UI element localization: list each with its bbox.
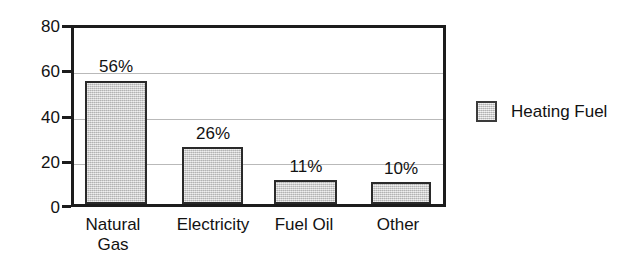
y-axis-tick-label-40: 40 bbox=[20, 109, 60, 126]
bar-fuel-oil[interactable] bbox=[274, 180, 337, 204]
y-axis-tick-label-0: 0 bbox=[20, 199, 60, 216]
bar-value-electricity: 26% bbox=[179, 125, 247, 142]
x-axis-label-fuel-oil: Fuel Oil bbox=[262, 215, 346, 235]
x-axis-label-electricity: Electricity bbox=[163, 215, 263, 235]
x-axis-label-other: Other bbox=[358, 215, 438, 235]
legend-label-heating-fuel: Heating Fuel bbox=[511, 102, 607, 122]
legend-swatch-heating-fuel bbox=[476, 101, 497, 122]
bar-value-fuel-oil: 11% bbox=[272, 158, 340, 175]
y-axis-tick-label-20: 20 bbox=[20, 154, 60, 171]
y-axis-tick-label-60: 60 bbox=[20, 63, 60, 80]
y-axis-tick-mark-80 bbox=[62, 25, 71, 28]
y-axis-tick-mark-60 bbox=[62, 70, 71, 73]
x-axis-label-natural-gas: Natural Gas bbox=[66, 215, 160, 255]
bar-value-natural-gas: 56% bbox=[82, 58, 150, 75]
y-axis-tick-mark-40 bbox=[62, 116, 71, 119]
y-axis-tick-mark-20 bbox=[62, 161, 71, 164]
bar-chart-figure: 80 60 40 20 0 56% 26% 11% 10% Natural Ga… bbox=[0, 0, 638, 264]
bar-value-other: 10% bbox=[367, 160, 435, 177]
y-axis-tick-label-80: 80 bbox=[20, 18, 60, 35]
bar-natural-gas[interactable] bbox=[85, 81, 147, 204]
legend: Heating Fuel bbox=[476, 101, 607, 122]
plot-area bbox=[71, 25, 446, 207]
y-axis-tick-mark-0 bbox=[62, 205, 71, 208]
bar-other[interactable] bbox=[371, 182, 431, 204]
bar-electricity[interactable] bbox=[182, 147, 243, 204]
